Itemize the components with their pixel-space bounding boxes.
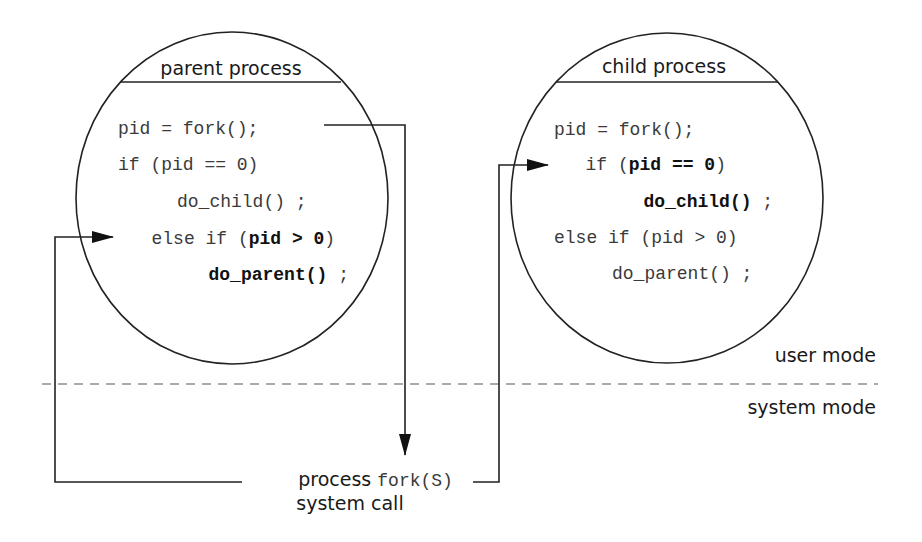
fork-diagram: parent process pid = fork(); if (pid == … <box>0 0 922 542</box>
parent-line4-suffix: ) <box>324 229 335 249</box>
syscall-label-prefix: process <box>298 468 377 490</box>
child-code-line-1: pid = fork(); <box>554 120 694 140</box>
child-process-title: child process <box>602 55 726 77</box>
child-code-line-3: do_child() ; <box>612 191 796 212</box>
syscall-fork-code: fork(S) <box>377 471 453 491</box>
parent-line5-suffix: ; <box>327 265 349 285</box>
child-process: child process pid = fork(); if (pid == 0… <box>511 33 823 363</box>
child-code-line-4: else if (pid > 0) <box>554 228 738 248</box>
parent-do-parent-call: do_parent() <box>209 265 328 285</box>
user-mode-label: user mode <box>775 344 876 366</box>
child-code-line-2: if (pid == 0) <box>554 154 748 175</box>
syscall-label-line-2: system call <box>296 492 403 514</box>
parent-line4-condition: pid > 0 <box>249 229 325 249</box>
parent-code-line-1: pid = fork(); <box>118 119 258 139</box>
child-line2-condition: pid == 0 <box>629 155 715 175</box>
child-line2-suffix: ) <box>715 155 726 175</box>
fork-system-call: process fork(S) system call <box>265 468 477 514</box>
system-mode-label: system mode <box>747 396 876 418</box>
parent-code-line-5: do_parent() ; <box>177 264 371 285</box>
fork-call-arrow <box>324 125 405 455</box>
parent-code-line-2: if (pid == 0) <box>118 155 258 175</box>
child-code-line-5: do_parent() ; <box>612 264 752 284</box>
parent-line4-prefix: else if ( <box>152 229 249 249</box>
child-line2-prefix: if ( <box>586 155 629 175</box>
child-line3-suffix: ; <box>752 192 774 212</box>
parent-code-line-3: do_child() ; <box>177 192 307 212</box>
child-do-child-call: do_child() <box>644 192 752 212</box>
return-to-child-arrow <box>473 165 548 482</box>
parent-code-line-4: else if (pid > 0) <box>120 228 358 249</box>
parent-process: parent process pid = fork(); if (pid == … <box>76 32 388 364</box>
parent-process-title: parent process <box>160 57 301 79</box>
syscall-label-line-1: process fork(S) <box>265 468 477 491</box>
